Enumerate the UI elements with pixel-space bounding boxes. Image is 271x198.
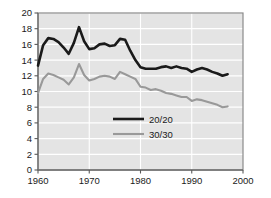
y-tick-label: 12 <box>21 70 32 81</box>
x-tick-label: 2000 <box>232 175 253 186</box>
legend-label-20-20: 20/20 <box>149 114 173 125</box>
x-tick-label: 1970 <box>79 175 100 186</box>
y-tick-label: 14 <box>21 55 32 66</box>
y-tick-label: 18 <box>21 23 32 34</box>
x-tick-label: 1960 <box>27 175 48 186</box>
y-tick-label: 16 <box>21 39 32 50</box>
chart-container: 02468101214161820 19601970198019902000 2… <box>0 0 271 198</box>
y-tick-label: 20 <box>21 7 32 18</box>
y-tick-label: 6 <box>27 117 32 128</box>
y-tick-label: 2 <box>27 149 32 160</box>
legend-label-30-30: 30/30 <box>149 129 173 140</box>
line-chart: 02468101214161820 19601970198019902000 2… <box>0 0 271 198</box>
y-tick-label: 10 <box>21 86 32 97</box>
y-tick-label: 4 <box>27 133 32 144</box>
x-tick-label: 1990 <box>181 175 202 186</box>
y-tick-label: 0 <box>27 164 32 175</box>
x-tick-label: 1980 <box>130 175 151 186</box>
y-tick-label: 8 <box>27 102 32 113</box>
